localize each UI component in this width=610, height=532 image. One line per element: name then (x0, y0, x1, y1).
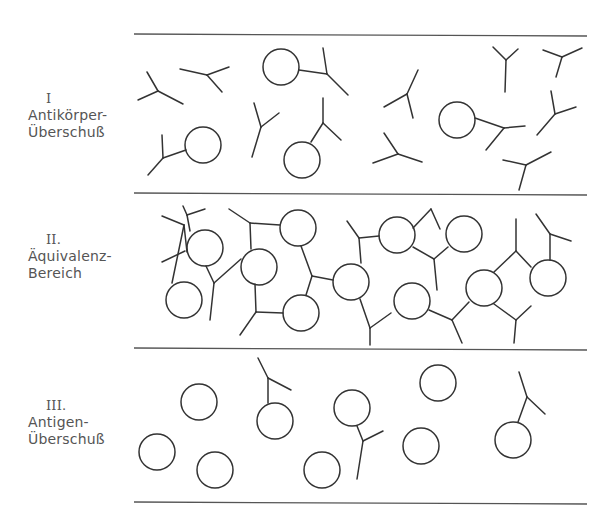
antibody-arm (359, 238, 361, 263)
antibody-arm (250, 223, 280, 225)
antibody-y-shape (503, 152, 551, 190)
antibody-arm (183, 206, 187, 215)
antibody-y-shape (357, 426, 383, 479)
antibody-arm (373, 154, 398, 163)
antibody-y-shape (258, 358, 291, 403)
antibody-arm (434, 247, 448, 259)
antibody-arm (311, 123, 323, 142)
antibody-arm (562, 48, 582, 57)
antigen-circle (466, 270, 502, 306)
antibody-arm (452, 302, 469, 320)
antigen-circle (197, 452, 233, 488)
antigen-circle (241, 249, 277, 285)
zone-divider-line (134, 193, 587, 195)
antibody-y-shape (543, 48, 582, 77)
antibody-arm (518, 397, 527, 422)
antibody-y-shape (493, 47, 518, 92)
antibody-arm (519, 372, 527, 397)
antibody-arm (407, 70, 418, 94)
antibody-arm (299, 70, 327, 74)
antibody-arm (206, 266, 214, 283)
antibody-arm (359, 236, 379, 238)
antibody-arm (229, 209, 250, 223)
antibody-y-shape (475, 118, 525, 150)
antibody-y-shape (180, 67, 229, 92)
antigen-circle (333, 264, 369, 300)
antigen-circle (166, 282, 202, 318)
antibody-arm (537, 114, 555, 135)
zone-2-equivalence (162, 206, 571, 345)
antibody-arm (452, 320, 462, 343)
antigen-circle (304, 452, 340, 488)
antibody-arm (207, 67, 229, 75)
antibody-arm (384, 94, 407, 107)
antibody-arm (429, 310, 452, 320)
antibody-arm (398, 154, 422, 162)
antibody-arm (519, 165, 526, 190)
antigen-circle (379, 217, 415, 253)
antibody-arm (327, 74, 348, 95)
antibody-y-shape (252, 103, 279, 157)
antibody-y-shape (518, 372, 545, 422)
zone-1-antibody-excess (138, 47, 582, 190)
zone-divider-line (134, 348, 587, 350)
antibody-y-shape (138, 72, 183, 104)
antibody-arm (434, 259, 437, 290)
antigen-circle (257, 403, 293, 439)
antigen-circle (403, 428, 439, 464)
antibody-y-shape (537, 91, 576, 135)
antibody-arm (360, 299, 370, 328)
antibody-arm (147, 72, 158, 91)
antibody-arm (357, 441, 363, 479)
antibody-arm (543, 50, 562, 57)
antibody-arm (261, 113, 279, 127)
antibody-arm (258, 358, 268, 378)
antibody-arm (214, 259, 241, 283)
antibody-arm (347, 221, 359, 238)
antibody-arm (536, 214, 550, 234)
antigen-circle (530, 260, 566, 296)
antibody-arm (162, 135, 163, 158)
antibody-arm (306, 276, 312, 295)
antibody-arm (163, 150, 186, 158)
antibody-arm (370, 313, 391, 328)
antigen-circle (420, 365, 456, 401)
antibody-arm (555, 107, 576, 114)
antibody-arm (187, 215, 190, 231)
antigen-circle (283, 295, 319, 331)
antibody-arm (252, 127, 261, 157)
antibody-arm (180, 69, 207, 75)
antigen-circle (495, 422, 531, 458)
antibody-arm (526, 152, 551, 165)
antigen-circle (187, 230, 223, 266)
antigen-circle (139, 434, 175, 470)
antibody-arm (384, 133, 398, 154)
antibody-arm (413, 209, 431, 228)
antibody-arm (148, 158, 163, 175)
antibody-y-shape (384, 70, 418, 118)
antibody-arm (413, 247, 434, 259)
antibody-arm (138, 91, 158, 100)
precipitation-diagram (0, 0, 610, 532)
antibody-arm (550, 234, 571, 241)
antibody-arm (158, 91, 183, 104)
antibody-arm (363, 431, 383, 441)
antibody-arm (162, 251, 185, 262)
zone-divider-line (134, 34, 587, 36)
antibody-arm (475, 118, 504, 128)
antibody-arm (493, 47, 506, 60)
antigen-circle (263, 49, 299, 85)
antibody-arm (323, 48, 327, 74)
antibody-arm (503, 160, 526, 165)
antibody-arm (505, 60, 506, 92)
antibody-arm (240, 312, 256, 335)
antigen-circle (284, 142, 320, 178)
antigen-circle (446, 216, 482, 252)
antigen-circle (334, 390, 370, 426)
antibody-arm (187, 209, 205, 215)
antibody-arm (527, 397, 545, 414)
antibody-arm (556, 57, 562, 77)
antibody-y-shape (311, 98, 341, 142)
antibody-arm (514, 320, 516, 343)
antibody-arm (255, 284, 256, 312)
